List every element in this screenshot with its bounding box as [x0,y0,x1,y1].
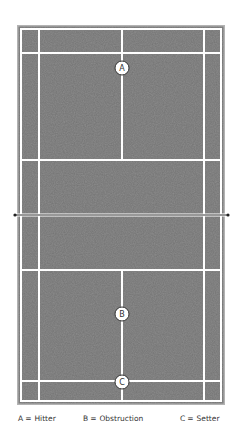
net [13,213,229,216]
net-post-left [13,213,16,216]
marker-c: C [115,375,129,389]
marker-c-label: C [119,378,125,387]
legend-equals: = [25,414,31,423]
legend-key: A [18,414,23,423]
legend-equals: = [90,414,96,423]
badminton-court-diagram: A B C [0,0,233,434]
legend-equals: = [187,414,193,423]
legend-label: Obstruction [99,414,143,423]
legend-item-setter: C=Setter [180,414,220,423]
marker-a: A [115,61,129,75]
legend-label: Setter [197,414,220,423]
legend-item-hitter: A=Hitter [18,414,56,423]
legend: A=Hitter B=Obstruction C=Setter [0,412,233,428]
net-post-right [226,213,229,216]
marker-b: B [115,307,129,321]
marker-a-label: A [119,64,125,73]
legend-label: Hitter [34,414,55,423]
legend-key: C [180,414,185,423]
legend-item-obstruction: B=Obstruction [83,414,143,423]
legend-key: B [83,414,88,423]
marker-b-label: B [119,310,125,319]
